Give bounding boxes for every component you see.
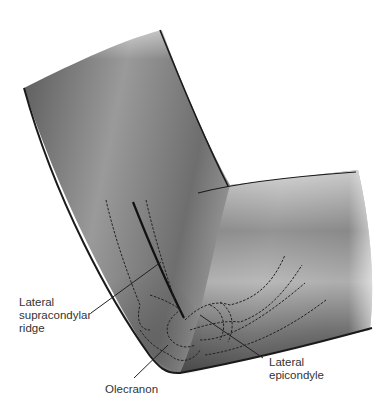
label-olecranon: Olecranon bbox=[105, 383, 158, 396]
elbow-illustration bbox=[0, 0, 391, 406]
label-lateral-epicondyle: Lateral epicondyle bbox=[269, 356, 324, 382]
label-line: supracondylar bbox=[19, 309, 91, 322]
label-lateral-supracondylar-ridge: Lateral supracondylar ridge bbox=[19, 296, 91, 335]
label-line: Lateral bbox=[269, 356, 324, 369]
label-line: Lateral bbox=[19, 296, 91, 309]
label-line: Olecranon bbox=[105, 383, 158, 396]
label-line: epicondyle bbox=[269, 369, 324, 382]
label-line: ridge bbox=[19, 322, 91, 335]
